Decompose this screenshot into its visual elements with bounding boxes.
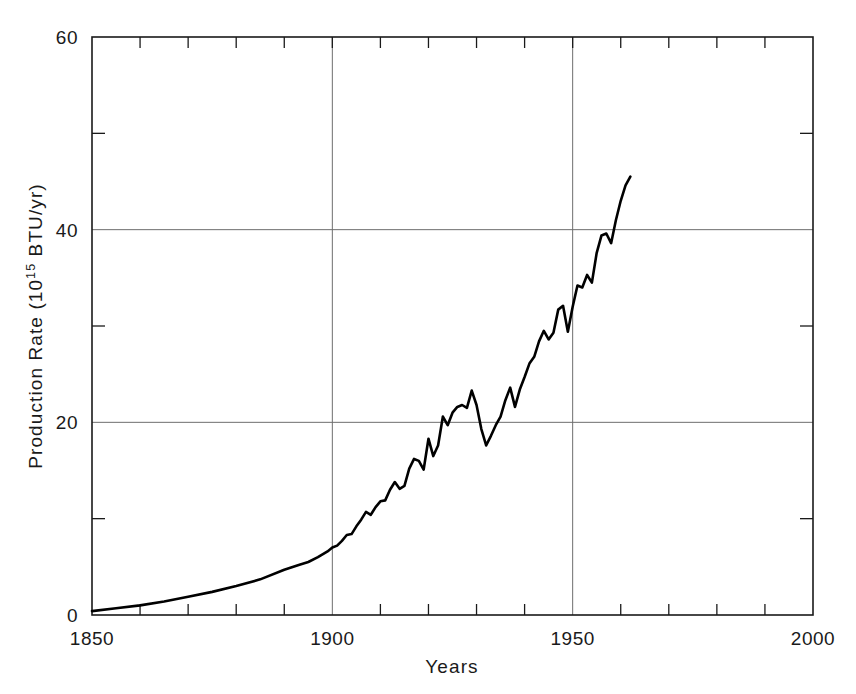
y-tick-labels-group: 0204060: [56, 27, 78, 626]
y-tick-label-0: 0: [67, 605, 78, 626]
energy-production-line-chart: 1850190019502000 0204060 Years Productio…: [0, 0, 856, 694]
y-axis-title-prefix: Production Rate (10: [25, 279, 46, 469]
y-tick-label-60: 60: [56, 27, 78, 48]
figure-container: 1850190019502000 0204060 Years Productio…: [0, 0, 856, 694]
x-tick-labels-group: 1850190019502000: [70, 628, 835, 649]
plot-background: [92, 37, 813, 615]
y-axis-title-exponent: 15: [24, 263, 38, 279]
x-tick-label-1900: 1900: [310, 628, 354, 649]
y-tick-label-40: 40: [56, 220, 78, 241]
y-axis-title: Production Rate (1015 BTU/yr): [24, 183, 46, 469]
x-tick-label-2000: 2000: [791, 628, 835, 649]
x-tick-label-1850: 1850: [70, 628, 114, 649]
x-tick-label-1950: 1950: [551, 628, 595, 649]
y-axis-title-suffix: BTU/yr): [25, 183, 46, 263]
x-axis-title: Years: [425, 656, 478, 677]
y-tick-label-20: 20: [56, 412, 78, 433]
